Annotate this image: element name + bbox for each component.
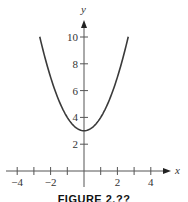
y-axis-label: y	[80, 3, 86, 15]
x-tick-label: −2	[45, 176, 57, 188]
y-tick-label: 6	[73, 85, 79, 97]
y-tick-label: 2	[73, 138, 79, 150]
y-tick-label: 8	[73, 58, 79, 70]
x-tick-label: 4	[148, 176, 154, 188]
y-tick-label: 4	[73, 111, 79, 123]
y-axis-arrow-icon	[81, 20, 87, 28]
x-axis-label: x	[174, 164, 180, 176]
y-tick-label: 10	[67, 31, 79, 43]
x-axis-arrow-icon	[163, 168, 171, 174]
axes: −4−224246810	[6, 20, 171, 188]
x-tick-label: 2	[115, 176, 121, 188]
x-tick-label: −4	[11, 176, 23, 188]
parabola-chart: −4−224246810 x y	[0, 0, 188, 202]
figure-caption: FIGURE 2.??	[0, 193, 188, 202]
